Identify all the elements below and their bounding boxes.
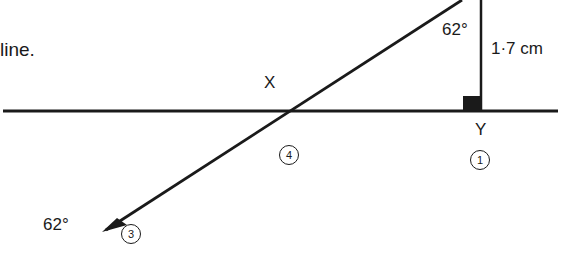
- point-y-label: Y: [475, 121, 486, 138]
- length-label: 1·7 cm: [491, 40, 543, 57]
- angle-bottom-label: 62°: [43, 216, 69, 233]
- step-marker-4: 4: [279, 145, 299, 165]
- angle-top-label: 62°: [442, 21, 468, 38]
- step-marker-1: 1: [470, 150, 490, 170]
- text-fragment: line.: [0, 40, 35, 59]
- point-x-label: X: [264, 74, 275, 91]
- diagonal-line: [106, 0, 462, 230]
- right-angle-marker: [463, 96, 481, 111]
- step-marker-3: 3: [121, 224, 141, 244]
